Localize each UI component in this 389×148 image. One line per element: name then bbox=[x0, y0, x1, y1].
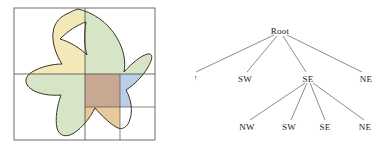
tree-node-sw: SW bbox=[238, 74, 252, 84]
quadtree-figure: Root NW SW SE NE NW SW SE NE bbox=[0, 0, 389, 148]
tree-node-nw: NW bbox=[195, 74, 197, 84]
tree-node-se: SE bbox=[303, 74, 314, 84]
tree-node-se-se: SE bbox=[320, 122, 331, 132]
tree-node-se-sw: SW bbox=[282, 122, 296, 132]
tree-node-se-nw: NW bbox=[239, 122, 255, 132]
tree-node-root: Root bbox=[271, 26, 290, 36]
region-se-nw bbox=[85, 74, 120, 107]
tree-node-ne: NE bbox=[360, 74, 373, 84]
quadtree-tree-panel: Root NW SW SE NE NW SW SE NE bbox=[195, 0, 389, 148]
tree-node-se-ne: NE bbox=[359, 122, 372, 132]
quadtree-image-panel bbox=[0, 0, 195, 148]
